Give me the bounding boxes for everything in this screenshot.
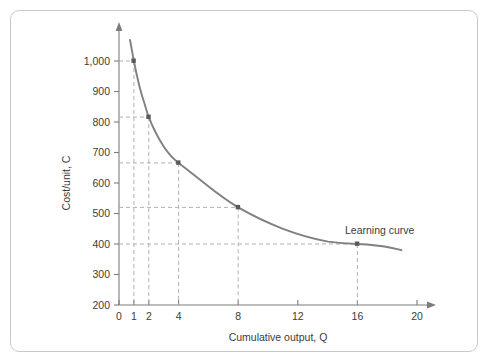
y-axis-title: Cost/unit, C: [60, 155, 72, 210]
guide-lines-group: [119, 61, 357, 305]
y-tick-marks: [114, 61, 119, 305]
x-axis-title: Cumulative output, Q: [229, 331, 328, 343]
figure-root: 1,000 900 800 700 600 500 400 300 200 0 …: [0, 0, 490, 363]
data-point-markers: [131, 59, 359, 246]
y-tick-labels: 1,000 900 800 700 600 500 400 300 200: [84, 55, 110, 311]
x-tick-labels: 0 1 2 4 8 12 16 20: [116, 310, 423, 322]
y-tick-label-800: 800: [92, 116, 110, 128]
data-point-q1: [131, 59, 135, 63]
data-point-q16: [355, 242, 359, 246]
y-tick-label-900: 900: [92, 85, 110, 97]
y-tick-label-600: 600: [92, 177, 110, 189]
data-point-q2: [146, 115, 150, 119]
x-tick-label-20: 20: [411, 310, 423, 322]
y-tick-label-700: 700: [92, 146, 110, 158]
y-tick-label-200: 200: [92, 299, 110, 311]
y-tick-label-500: 500: [92, 207, 110, 219]
x-tick-label-16: 16: [352, 310, 364, 322]
x-tick-label-0: 0: [116, 310, 122, 322]
y-tick-label-300: 300: [92, 268, 110, 280]
x-tick-label-12: 12: [292, 310, 304, 322]
data-point-q4: [176, 160, 180, 164]
x-tick-label-1: 1: [131, 310, 137, 322]
x-tick-label-2: 2: [146, 310, 152, 322]
learning-curve-path: [130, 40, 402, 250]
x-tick-marks: [119, 300, 417, 305]
y-axis-arrow-icon: [116, 22, 123, 31]
learning-curve-annotation-label: Learning curve: [345, 224, 415, 236]
x-tick-label-4: 4: [176, 310, 182, 322]
data-point-q8: [236, 205, 240, 209]
x-axis-arrow-icon: [427, 302, 436, 309]
x-tick-label-8: 8: [235, 310, 241, 322]
axes-group: [116, 22, 436, 308]
learning-curve-chart: 1,000 900 800 700 600 500 400 300 200 0 …: [0, 0, 490, 363]
y-tick-label-1000: 1,000: [84, 55, 110, 67]
y-tick-label-400: 400: [92, 238, 110, 250]
